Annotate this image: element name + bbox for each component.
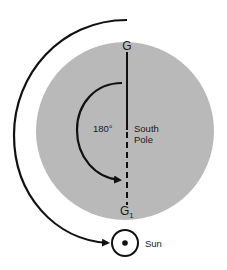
label-g1-subscript: 1 <box>129 211 134 220</box>
label-pole: Pole <box>134 134 153 145</box>
label-g1-base: G <box>120 204 129 218</box>
earth-disk <box>36 42 214 220</box>
sun-icon <box>112 230 138 256</box>
label-g: G <box>122 39 131 53</box>
earth-rotation-diagram: G 180° South Pole G1 Sun <box>0 0 227 270</box>
label-south: South <box>134 123 159 134</box>
label-sun: Sun <box>145 238 162 249</box>
label-angle: 180° <box>93 123 113 134</box>
